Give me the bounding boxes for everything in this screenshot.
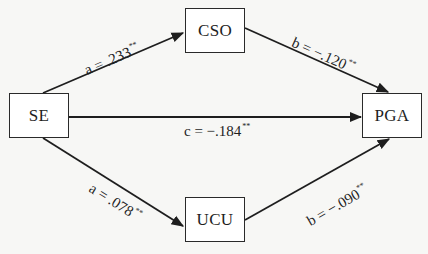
node-se-label: SE — [29, 106, 49, 126]
node-ucu-label: UCU — [197, 210, 234, 230]
mediation-diagram: SE CSO UCU PGA a = .233** b = −.120** c … — [0, 0, 428, 254]
node-se: SE — [9, 93, 69, 138]
node-ucu: UCU — [185, 197, 245, 242]
node-pga-label: PGA — [375, 106, 410, 126]
node-pga: PGA — [362, 93, 422, 138]
node-cso-label: CSO — [198, 21, 232, 41]
edge-se-ucu — [43, 138, 183, 226]
node-cso: CSO — [185, 8, 245, 53]
edge-label-se-pga: c = −.184** — [184, 123, 250, 139]
